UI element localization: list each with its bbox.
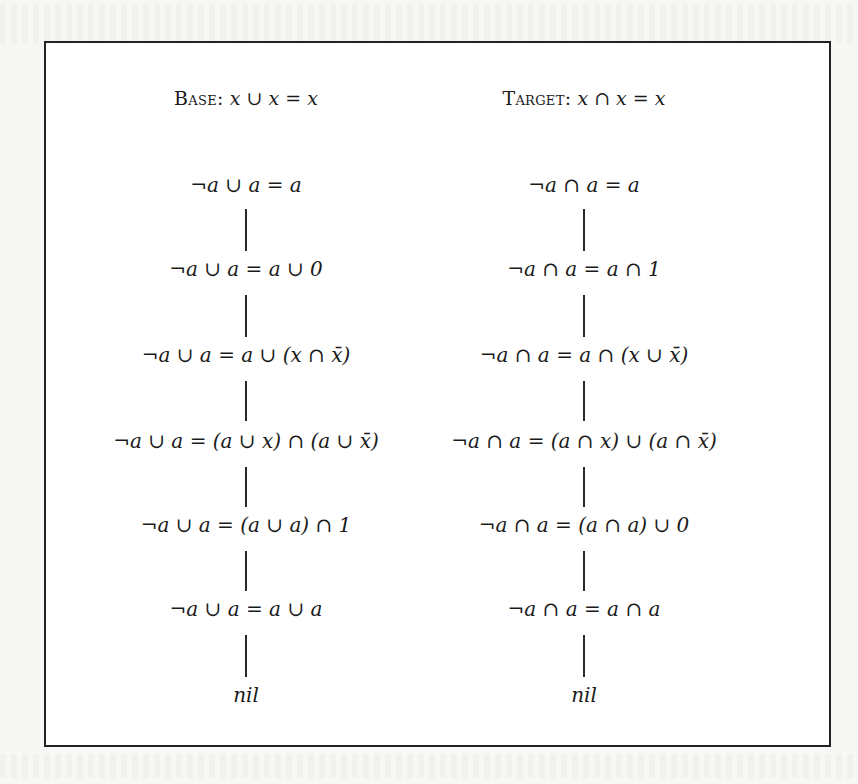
base-label: Base: (174, 87, 224, 109)
base-step-4: ¬a ∪ a = (a ∪ x) ∩ (a ∪ x̄) (66, 429, 426, 453)
target-step-4: ¬a ∩ a = (a ∩ x) ∪ (a ∩ x̄) (404, 429, 764, 453)
base-header: Base: x ∪ x = x (66, 87, 426, 109)
target-step-5: ¬a ∩ a = (a ∩ a) ∪ 0 (404, 513, 764, 537)
base-connector-3 (245, 381, 247, 421)
target-header: Target: x ∩ x = x (404, 87, 764, 109)
base-step-3: ¬a ∪ a = a ∪ (x ∩ x̄) (66, 343, 426, 367)
target-step-3: ¬a ∩ a = a ∩ (x ∪ x̄) (404, 343, 764, 367)
target-connector-5 (583, 551, 585, 591)
target-label: Target: (502, 87, 571, 109)
target-connector-2 (583, 295, 585, 337)
page-text-bleed-bottom (0, 754, 858, 778)
base-connector-5 (245, 551, 247, 591)
base-step-nil: nil (66, 683, 426, 707)
base-step-6: ¬a ∪ a = a ∪ a (66, 597, 426, 621)
base-step-1: ¬a ∪ a = a (66, 173, 426, 197)
base-rule: x ∪ x = x (230, 87, 318, 109)
base-step-5: ¬a ∪ a = (a ∪ a) ∩ 1 (66, 513, 426, 537)
base-connector-6 (245, 635, 247, 677)
page-text-bleed-top (0, 4, 858, 44)
target-step-6: ¬a ∩ a = a ∩ a (404, 597, 764, 621)
base-step-2: ¬a ∪ a = a ∪ 0 (66, 257, 426, 281)
target-rule: x ∩ x = x (577, 87, 665, 109)
target-connector-4 (583, 467, 585, 507)
base-connector-2 (245, 295, 247, 337)
derivation-figure: Base: x ∪ x = x ¬a ∪ a = a ¬a ∪ a = a ∪ … (44, 41, 831, 747)
target-step-1: ¬a ∩ a = a (404, 173, 764, 197)
target-connector-3 (583, 381, 585, 421)
target-connector-1 (583, 209, 585, 251)
target-step-nil: nil (404, 683, 764, 707)
target-step-2: ¬a ∩ a = a ∩ 1 (404, 257, 764, 281)
base-connector-1 (245, 209, 247, 251)
base-connector-4 (245, 467, 247, 507)
target-connector-6 (583, 635, 585, 677)
